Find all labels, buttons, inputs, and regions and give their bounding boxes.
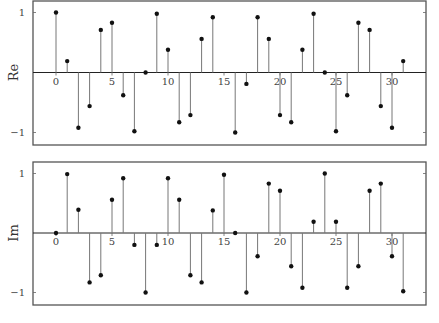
real-part-panel: 1−1Re051015202530 bbox=[6, 1, 426, 145]
x-tick-label: 5 bbox=[109, 236, 115, 247]
x-tick-label: 5 bbox=[109, 76, 115, 87]
stem-marker bbox=[121, 176, 125, 180]
stem-marker bbox=[244, 290, 248, 294]
stem-marker bbox=[379, 104, 383, 108]
stem-marker bbox=[166, 48, 170, 52]
stem-marker bbox=[267, 181, 271, 185]
x-tick-label: 15 bbox=[218, 76, 231, 87]
stem-marker bbox=[54, 231, 58, 235]
stem-marker bbox=[177, 197, 181, 201]
x-tick-label: 15 bbox=[218, 236, 231, 247]
stem-marker bbox=[132, 243, 136, 247]
stem-marker bbox=[87, 280, 91, 284]
stem-marker bbox=[166, 176, 170, 180]
stem-marker bbox=[76, 208, 80, 212]
x-tick-label: 10 bbox=[162, 236, 175, 247]
stem-marker bbox=[267, 37, 271, 41]
y-axis-label: Im bbox=[6, 224, 21, 241]
stem-marker bbox=[334, 129, 338, 133]
stem-marker bbox=[199, 280, 203, 284]
stem-marker bbox=[289, 120, 293, 124]
stem-marker bbox=[334, 219, 338, 223]
stem-marker bbox=[345, 93, 349, 97]
stem-marker bbox=[244, 82, 248, 86]
stem-marker bbox=[143, 70, 147, 74]
stem-marker bbox=[65, 172, 69, 176]
stem-marker bbox=[356, 264, 360, 268]
x-tick-label: 0 bbox=[53, 76, 59, 87]
stem-marker bbox=[367, 189, 371, 193]
y-tick-label: −1 bbox=[10, 287, 25, 298]
stem-marker bbox=[323, 70, 327, 74]
imag-part-panel: 1−1Im051015202530 bbox=[6, 162, 426, 305]
stem-marker bbox=[356, 21, 360, 25]
y-tick-label: −1 bbox=[10, 127, 25, 138]
stem-marker bbox=[233, 231, 237, 235]
y-tick-label: 1 bbox=[19, 168, 25, 179]
x-tick-label: 10 bbox=[162, 76, 175, 87]
stem-marker bbox=[255, 254, 259, 258]
stem-marker bbox=[54, 10, 58, 14]
stem-marker bbox=[121, 93, 125, 97]
stem-marker bbox=[401, 289, 405, 293]
stem-chart-figure: 1−1Re051015202530 1−1Im051015202530 bbox=[0, 0, 439, 323]
stem-marker bbox=[211, 15, 215, 19]
y-axis-label: Re bbox=[6, 63, 21, 81]
stem-marker bbox=[155, 12, 159, 16]
stem-marker bbox=[188, 273, 192, 277]
stem-marker bbox=[177, 120, 181, 124]
x-tick-label: 25 bbox=[330, 236, 343, 247]
stem-marker bbox=[390, 126, 394, 130]
stem-marker bbox=[289, 264, 293, 268]
x-tick-label: 0 bbox=[53, 236, 59, 247]
stem-marker bbox=[99, 273, 103, 277]
stem-marker bbox=[155, 243, 159, 247]
stem-marker bbox=[323, 171, 327, 175]
stem-marker bbox=[311, 219, 315, 223]
stem-marker bbox=[278, 189, 282, 193]
stem-marker bbox=[300, 48, 304, 52]
stem-marker bbox=[367, 28, 371, 32]
stem-marker bbox=[211, 208, 215, 212]
stem-marker bbox=[255, 15, 259, 19]
stem-marker bbox=[401, 59, 405, 63]
stem-marker bbox=[199, 37, 203, 41]
stem-marker bbox=[76, 126, 80, 130]
stem-marker bbox=[390, 254, 394, 258]
stem-marker bbox=[110, 21, 114, 25]
stem-marker bbox=[143, 290, 147, 294]
stem-marker bbox=[278, 113, 282, 117]
stem-marker bbox=[87, 104, 91, 108]
stem-marker bbox=[110, 197, 114, 201]
x-tick-label: 20 bbox=[274, 236, 287, 247]
stem-marker bbox=[379, 181, 383, 185]
stem-marker bbox=[345, 286, 349, 290]
stem-marker bbox=[188, 113, 192, 117]
stem-marker bbox=[311, 12, 315, 16]
stem-marker bbox=[300, 286, 304, 290]
stem-marker bbox=[132, 129, 136, 133]
stem-marker bbox=[99, 28, 103, 32]
stem-marker bbox=[222, 172, 226, 176]
stem-marker bbox=[65, 59, 69, 63]
stem-marker bbox=[233, 130, 237, 134]
y-tick-label: 1 bbox=[19, 7, 25, 18]
